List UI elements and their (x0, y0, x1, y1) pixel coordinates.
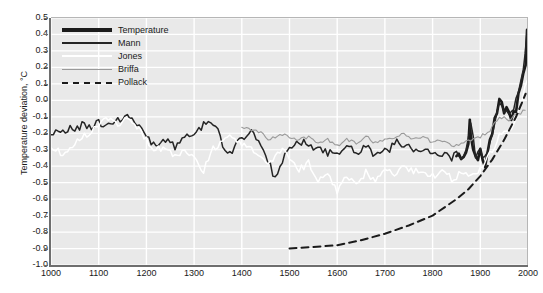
y-axis-tick-label: -0.3 (4, 145, 48, 154)
y-axis-tick-mark (44, 216, 48, 217)
legend-item-briffa: Briffa (62, 63, 212, 76)
legend-label-mann: Mann (118, 37, 141, 50)
legend-item-pollack: Pollack (62, 76, 212, 89)
y-axis-tick-label: 0.4 (4, 29, 48, 38)
y-axis-tick-mark (44, 265, 48, 266)
y-axis-tick: 0.1 (0, 79, 48, 88)
y-axis-tick: -0.5 (0, 178, 48, 187)
y-axis-tick-label: -0.9 (4, 244, 48, 253)
y-axis-tick-mark (44, 34, 48, 35)
y-axis-tick: -0.8 (0, 227, 48, 236)
axis-spine-top (51, 17, 528, 18)
y-axis-tick: -0.3 (0, 145, 48, 154)
legend-label-pollack: Pollack (118, 76, 147, 89)
y-axis-tick: -0.6 (0, 194, 48, 203)
legend-swatch-temperature (62, 28, 112, 32)
y-axis-tick: -0.2 (0, 128, 48, 137)
x-axis-tick: 2000 (498, 268, 543, 278)
legend-label-briffa: Briffa (118, 63, 139, 76)
y-axis-tick: 0.5 (0, 13, 48, 22)
y-axis-tick: 0.2 (0, 62, 48, 71)
legend-swatch-pollack (62, 82, 112, 84)
y-axis-tick-label: 0.1 (4, 79, 48, 88)
y-axis-tick-mark (44, 199, 48, 200)
x-axis-tick-label: 2000 (498, 268, 543, 278)
y-axis-tick-label: 0.2 (4, 62, 48, 71)
legend-item-jones: Jones (62, 50, 212, 63)
y-axis-tick: -0.9 (0, 244, 48, 253)
y-axis-tick: -0.4 (0, 161, 48, 170)
y-axis-tick-label: -0.4 (4, 161, 48, 170)
y-axis-tick-mark (44, 18, 48, 19)
y-axis-tick-label: -0.8 (4, 227, 48, 236)
y-axis-tick-mark (44, 150, 48, 151)
y-axis-tick: 0.0 (0, 95, 48, 104)
y-axis-tick: 0.4 (0, 29, 48, 38)
y-axis-tick-label: 0.5 (4, 13, 48, 22)
temperature-reconstruction-chart: Temperature deviation, °C 0.50.40.30.20.… (0, 0, 543, 293)
legend-item-mann: Mann (62, 37, 212, 50)
x-axis-line (49, 265, 528, 267)
y-axis-tick-mark (44, 84, 48, 85)
y-axis-tick-mark (44, 183, 48, 184)
y-axis-tick-mark (44, 67, 48, 68)
axis-spine-right (527, 18, 528, 266)
y-axis-tick-label: 0.3 (4, 46, 48, 55)
y-axis-tick-label: -0.1 (4, 112, 48, 121)
y-axis-line (49, 18, 51, 267)
y-axis-tick-label: -0.7 (4, 211, 48, 220)
y-axis-tick: -0.1 (0, 112, 48, 121)
y-axis-tick: 0.3 (0, 46, 48, 55)
series-line-briffa (242, 110, 525, 147)
y-axis-tick-mark (44, 166, 48, 167)
y-axis-tick: -0.7 (0, 211, 48, 220)
y-axis-tick-mark (44, 51, 48, 52)
chart-legend: TemperatureMannJonesBriffaPollack (62, 24, 212, 89)
legend-swatch-mann (62, 42, 112, 44)
y-axis-tick-mark (44, 117, 48, 118)
legend-swatch-jones (62, 55, 112, 57)
y-axis-tick-mark (44, 133, 48, 134)
legend-label-jones: Jones (118, 50, 142, 63)
y-axis-tick-label: 0.0 (4, 95, 48, 104)
y-axis-tick-mark (44, 249, 48, 250)
y-axis-tick-label: -0.6 (4, 194, 48, 203)
y-axis-tick-mark (44, 232, 48, 233)
legend-label-temperature: Temperature (118, 24, 169, 37)
y-axis-tick-label: -0.5 (4, 178, 48, 187)
y-axis-tick-label: -0.2 (4, 128, 48, 137)
legend-swatch-briffa (62, 69, 112, 70)
legend-item-temperature: Temperature (62, 24, 212, 37)
y-axis-tick-mark (44, 100, 48, 101)
